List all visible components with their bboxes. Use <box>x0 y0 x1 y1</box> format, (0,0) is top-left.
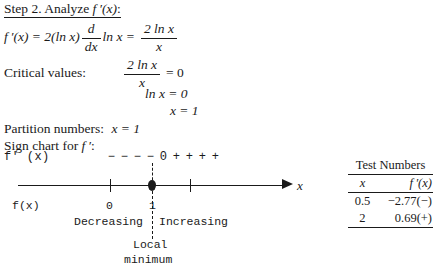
tick-mark-0 <box>110 179 111 192</box>
derivative-mid: ln x = <box>103 29 135 44</box>
local-min-line1: Local <box>133 238 168 251</box>
sign-cell: − <box>144 150 157 164</box>
column-header-x: x <box>348 175 377 193</box>
test-numbers-table: Test Numbers x f ′(x) 0.5 −2.77(−) 2 0.6… <box>348 158 433 228</box>
table-bottom-rule <box>348 227 433 228</box>
table-row: 0.5 −2.77(−) <box>348 193 433 211</box>
sign-cell: + <box>170 150 183 164</box>
document-page: Step 2. Analyze f ′(x): f ′(x) = 2(ln x)… <box>0 0 433 274</box>
test-numbers-title: Test Numbers <box>348 158 433 174</box>
step-function: f ′(x) <box>93 1 117 16</box>
ddx-numerator: d <box>82 22 101 39</box>
table-row: 2 0.69(+) <box>348 210 433 227</box>
sign-cell: + <box>209 150 222 164</box>
sign-cell: + <box>183 150 196 164</box>
sign-row-label: f' (x) <box>4 150 50 164</box>
axis-arrow-icon <box>282 179 293 189</box>
interval-label-decreasing: Decreasing <box>74 215 143 228</box>
interval-label-increasing: Increasing <box>159 215 228 228</box>
partition-value: x = 1 <box>112 121 141 136</box>
column-header-fprime: f ′(x) <box>377 175 433 193</box>
derivative-result-denominator: x <box>141 39 177 55</box>
critical-step-lnx: ln x = 0 <box>145 87 187 101</box>
sign-cell: − <box>105 150 118 164</box>
tick-label-0: 0 <box>106 199 113 212</box>
sign-row-values: −−−−0++++ <box>105 150 222 164</box>
local-min-line2: minimum <box>124 253 172 266</box>
critical-rhs: = 0 <box>166 65 184 80</box>
step-number: Step 2. <box>4 1 42 16</box>
critical-numerator: 2 ln x <box>124 58 160 75</box>
cell-x: 2 <box>348 210 377 227</box>
cell-x: 0.5 <box>348 193 377 211</box>
derivative-result-numerator: 2 ln x <box>141 22 177 39</box>
critical-values-label: Critical values: <box>4 66 86 80</box>
partition-label: Partition numbers: <box>4 121 104 136</box>
sign-cell: + <box>196 150 209 164</box>
cell-fprime: 0.69(+) <box>377 210 433 227</box>
critical-step-x: x = 1 <box>170 104 199 118</box>
cell-fprime: −2.77(−) <box>377 193 433 211</box>
sign-cell: − <box>118 150 131 164</box>
sign-chart-function: f ′ <box>82 138 91 153</box>
table-header-row: x f ′(x) <box>348 175 433 193</box>
fx-row-label: f(x) <box>12 199 40 212</box>
derivative-result-fraction: 2 ln xx <box>141 22 177 54</box>
ddx-denominator: dx <box>82 39 101 55</box>
ddx-operator: ddx <box>82 22 101 54</box>
axis-variable-label: x <box>297 178 303 194</box>
test-numbers-grid: x f ′(x) 0.5 −2.77(−) 2 0.69(+) <box>348 174 433 227</box>
step-heading: Step 2. Analyze f ′(x): <box>4 1 121 17</box>
step-colon: : <box>117 1 121 16</box>
derivative-lhs: f ′(x) = 2(ln x) <box>4 29 80 44</box>
derivative-equation: f ′(x) = 2(ln x)ddxln x =2 ln xx <box>4 22 179 54</box>
sign-cell: − <box>131 150 144 164</box>
step-verb: Analyze <box>44 1 89 16</box>
tick-mark-right <box>190 179 191 192</box>
sign-cell-zero: 0 <box>157 150 170 164</box>
partition-numbers: Partition numbers: x = 1 <box>4 122 140 136</box>
tick-label-1: 1 <box>149 199 156 212</box>
critical-point-dot <box>148 180 156 191</box>
